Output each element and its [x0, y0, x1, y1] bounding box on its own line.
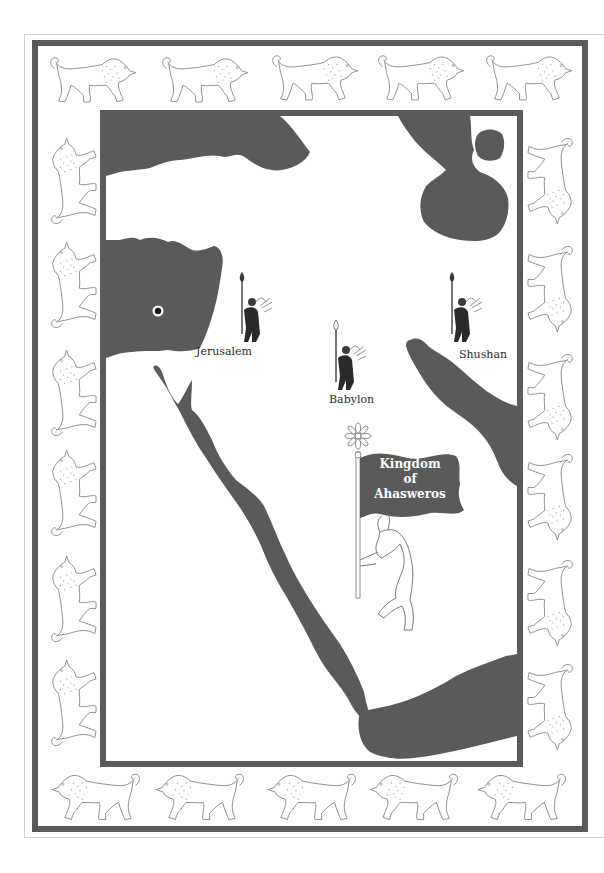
- black-sea: [106, 116, 310, 176]
- lion-icon: [46, 136, 100, 226]
- lion-icon: [46, 240, 100, 330]
- city-label-babylon: Babylon: [329, 393, 374, 406]
- lion-icon: [160, 54, 250, 104]
- lion-icon: [476, 770, 568, 822]
- city-label-shushan: Shushan: [459, 348, 507, 361]
- rosette-icon: [345, 423, 371, 449]
- lion-icon: [524, 352, 578, 442]
- lion-icon: [46, 448, 100, 538]
- arabian-sea: [358, 654, 517, 759]
- warrior-icon: [440, 272, 486, 348]
- lion-icon: [368, 770, 460, 822]
- banner-line-1: Kingdom: [362, 457, 458, 472]
- lion-icon: [48, 54, 138, 104]
- warrior-icon: [324, 320, 370, 396]
- lion-icon: [50, 770, 142, 822]
- caspian-island: [475, 130, 504, 161]
- warrior-icon: [230, 272, 276, 348]
- lion-icon: [154, 770, 246, 822]
- lion-icon: [524, 244, 578, 334]
- banner-line-3: Ahasweros: [362, 487, 458, 502]
- lion-icon: [524, 136, 578, 226]
- kingdom-banner-text: Kingdom of Ahasweros: [362, 457, 458, 502]
- mediterranean-sea: [106, 238, 223, 358]
- lion-icon: [266, 770, 358, 822]
- lion-icon: [46, 554, 100, 644]
- lion-icon: [484, 52, 574, 102]
- lion-icon: [46, 348, 100, 438]
- city-label-jerusalem: Jerusalem: [196, 345, 252, 358]
- lion-icon: [524, 558, 578, 648]
- lion-icon: [270, 52, 360, 102]
- lion-icon: [524, 452, 578, 542]
- kingdom-banner-flag: [340, 420, 490, 640]
- lion-icon: [524, 662, 578, 752]
- banner-line-2: of: [362, 472, 458, 487]
- lion-icon: [376, 52, 466, 102]
- lion-icon: [46, 658, 100, 748]
